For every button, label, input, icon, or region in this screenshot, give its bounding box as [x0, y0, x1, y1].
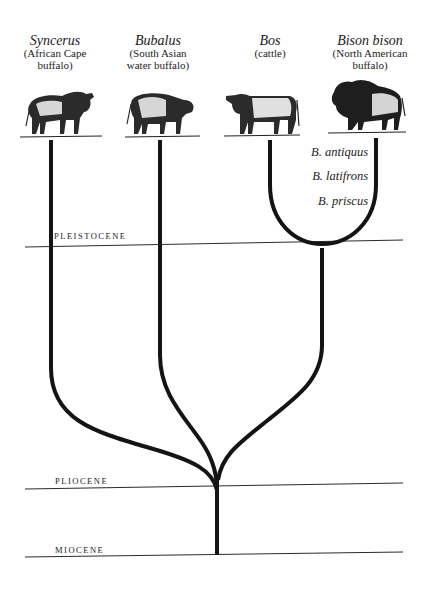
branch-bos-bison-stem	[218, 248, 322, 480]
water-buffalo-icon	[125, 93, 200, 137]
cape-buffalo-icon	[20, 92, 102, 137]
branch-syncerus	[51, 140, 217, 490]
phylogeny-tree	[0, 0, 427, 591]
cattle-icon	[224, 94, 300, 136]
branch-bubalus	[160, 140, 217, 490]
branch-bos-bison-split	[270, 138, 376, 244]
american-bison-icon	[328, 80, 406, 133]
epoch-line-pleistocene	[25, 240, 403, 247]
epoch-line-miocene	[25, 552, 403, 557]
